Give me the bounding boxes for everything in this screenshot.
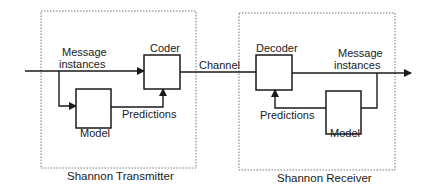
- coder-box: [144, 55, 180, 89]
- rx-output-label-line2: instances: [334, 59, 380, 71]
- tx-input-label-line1: Message: [62, 46, 107, 58]
- rx-predictions-line: [275, 90, 326, 108]
- input-to-model-line: [59, 71, 76, 106]
- tx-predictions-line: [111, 89, 163, 107]
- rx-model-label: Model: [330, 127, 360, 139]
- decoder-box: [256, 55, 292, 90]
- receiver-boundary: [239, 13, 395, 170]
- rx-output-label-line1: Message: [338, 47, 383, 59]
- output-to-model-line: [361, 73, 377, 108]
- coder-label: Coder: [150, 42, 180, 54]
- tx-model-box: [76, 89, 111, 128]
- transmitter-caption: Shannon Transmitter: [67, 170, 174, 182]
- diagram-canvas: [0, 0, 431, 191]
- receiver-caption: Shannon Receiver: [277, 172, 372, 184]
- tx-input-label-line2: instances: [59, 58, 105, 70]
- channel-label: Channel: [199, 59, 240, 71]
- rx-predictions-label: Predictions: [260, 109, 314, 121]
- tx-predictions-label: Predictions: [122, 108, 176, 120]
- tx-model-label: Model: [80, 127, 110, 139]
- decoder-label: Decoder: [256, 42, 298, 54]
